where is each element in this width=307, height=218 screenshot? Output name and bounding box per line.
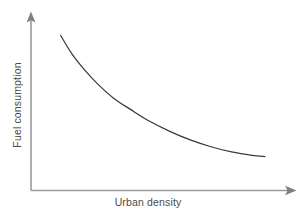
chart-canvas: [0, 0, 307, 218]
fuel-consumption-curve: [61, 35, 265, 156]
x-axis-label: Urban density: [0, 196, 296, 208]
chart-figure: Urban density Fuel consumption: [0, 0, 307, 218]
y-axis-label: Fuel consumption: [11, 62, 23, 147]
